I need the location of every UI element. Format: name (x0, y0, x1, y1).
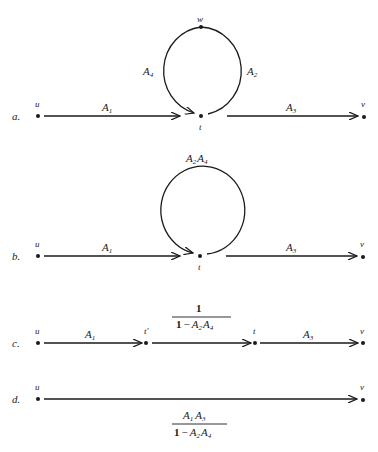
edge-label-a3: A3 (285, 241, 297, 255)
panel-b: b. u t v A1 A2A4 A3 (12, 152, 365, 272)
node-u-label: u (35, 99, 40, 109)
node-w-label: w (197, 14, 203, 24)
node-v (361, 255, 365, 259)
edge-label-a3: A3 (302, 328, 314, 342)
fraction-c-numerator: 1 (196, 302, 202, 314)
edge-t-w (201, 27, 241, 114)
node-v-label: v (360, 239, 364, 249)
node-u (36, 114, 40, 118)
edge-label-a4: A4 (142, 65, 154, 79)
node-v-label: v (360, 382, 364, 392)
node-u (36, 254, 40, 258)
node-v-label: v (360, 326, 364, 336)
fraction-c-denominator: 1−A2A4 (176, 318, 214, 332)
node-t-label: t (253, 326, 256, 336)
fraction-d-denominator: 1−A2A4 (174, 426, 212, 440)
panel-a-label: a. (12, 110, 20, 122)
node-v (361, 398, 365, 402)
panel-a: a. u t w v A1 A2 A4 A3 (12, 14, 366, 132)
edge-self-loop (161, 166, 245, 254)
node-t-label: t (198, 262, 201, 272)
node-u-label: u (35, 382, 40, 392)
node-u (36, 341, 40, 345)
edge-label-a1: A1 (84, 328, 95, 342)
panel-d-label: d. (12, 393, 20, 405)
edge-label-a1: A1 (101, 241, 112, 255)
panel-c-label: c. (12, 337, 20, 349)
signal-flow-diagram: a. u t w v A1 A2 A4 A3 b. u t v A1 (0, 0, 378, 452)
node-t (253, 341, 257, 345)
panel-d: d. u v A1A3 1−A2A4 (12, 382, 365, 440)
edge-w-t (164, 27, 201, 113)
edge-label-a3: A3 (285, 101, 297, 115)
node-u (36, 397, 40, 401)
node-t (199, 114, 203, 118)
node-u-label: u (35, 326, 40, 336)
node-v (362, 115, 366, 119)
fraction-d-numerator: A1A3 (182, 409, 206, 423)
edge-label-a2a4: A2A4 (185, 152, 208, 166)
node-t (198, 254, 202, 258)
panel-c: c. u t′ t v A1 1 1−A2A4 A3 (12, 302, 365, 349)
node-u-label: u (35, 239, 40, 249)
edge-label-a1: A1 (101, 101, 112, 115)
node-t-label: t (199, 122, 202, 132)
node-v (361, 341, 365, 345)
node-t-prime (144, 341, 148, 345)
node-v-label: v (361, 99, 365, 109)
panel-b-label: b. (12, 250, 20, 262)
node-t-prime-label: t′ (144, 326, 150, 336)
edge-label-a2: A2 (246, 65, 258, 79)
